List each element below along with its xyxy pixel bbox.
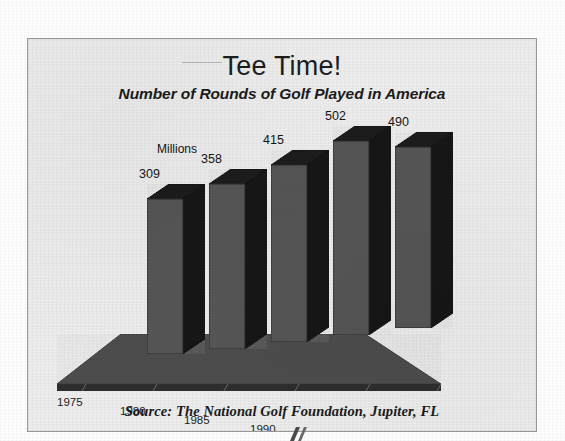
value-label-1995: 490 [388, 115, 409, 129]
value-label-1975: 309 [139, 167, 160, 181]
chart-svg [28, 39, 536, 431]
bar-1990 [333, 126, 391, 335]
slide-frame: Tee Time! Number of Rounds of Golf Playe… [27, 38, 537, 432]
axis-label-1990: 1990 [250, 423, 276, 432]
bar-1995 [395, 132, 453, 328]
value-label-1985: 415 [263, 133, 284, 147]
page-edge-artifact [286, 425, 308, 441]
bar-chart-plot: 309 358 415 502 490 Millions 1975 1980 1… [28, 39, 536, 431]
source-note: Source: The National Golf Foundation, Ju… [28, 403, 536, 420]
value-label-1990: 502 [325, 109, 346, 123]
value-label-1980: 358 [201, 152, 222, 166]
scanned-page-background: Tee Time! Number of Rounds of Golf Playe… [0, 0, 565, 441]
bar-1975 [147, 184, 205, 354]
units-label: Millions [157, 142, 197, 156]
bar-1980 [209, 169, 267, 349]
bar-1985 [271, 150, 329, 342]
